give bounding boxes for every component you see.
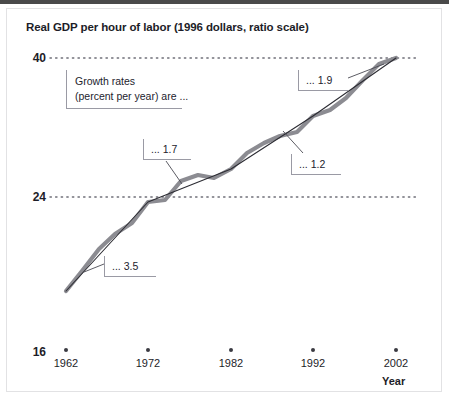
callout-growth-line-2: (percent per year) are ... [75, 89, 176, 104]
x-axis-tick-1962: 1962 [43, 357, 89, 369]
callout-growth-line-1: Growth rates [75, 74, 176, 89]
x-axis-tick-dot-1992 [311, 348, 315, 352]
x-axis-tick-dot-1972 [146, 348, 150, 352]
callout-rate-3-5: ... 3.5 [104, 256, 156, 277]
y-axis-tick-24: 24 [20, 190, 46, 204]
y-axis-tick-40: 40 [20, 51, 46, 65]
x-axis-tick-1992: 1992 [290, 357, 336, 369]
callout-rate-1-2: ... 1.2 [291, 154, 341, 175]
x-axis-label: Year [382, 375, 405, 387]
x-axis-tick-1982: 1982 [208, 357, 254, 369]
x-axis-tick-2002: 2002 [373, 357, 419, 369]
callout-growth-rates: Growth rates (percent per year) are ... [66, 70, 182, 109]
plot-area [0, 0, 449, 396]
callout-rate-1-7: ... 1.7 [143, 139, 191, 160]
x-axis-tick-dot-1962 [64, 348, 68, 352]
x-axis-tick-1972: 1972 [125, 357, 171, 369]
callout-rate-1-9: ... 1.9 [298, 70, 348, 91]
chart-figure: Real GDP per hour of labor (1996 dollars… [0, 0, 449, 396]
x-axis-tick-dot-2002 [394, 348, 398, 352]
x-axis-tick-dot-1982 [229, 348, 233, 352]
leader-line-17 [166, 161, 182, 184]
